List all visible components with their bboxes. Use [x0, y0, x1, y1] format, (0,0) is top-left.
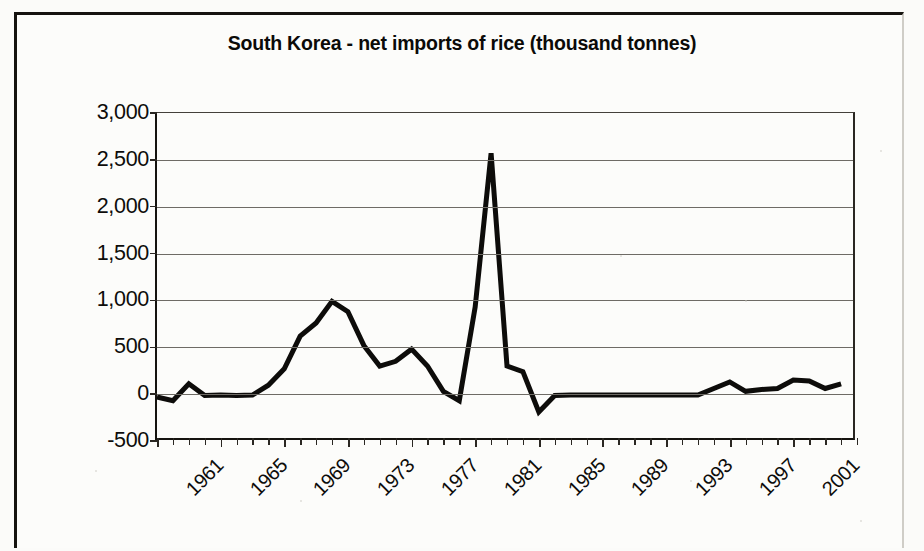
- scan-artifact: [860, 520, 862, 522]
- x-axis-tick-label: 1989: [627, 454, 674, 501]
- x-axis-tick-label: 1973: [372, 454, 419, 501]
- x-axis-tick-label: 1993: [691, 454, 738, 501]
- scan-artifact: [620, 255, 622, 257]
- x-axis-tick-label: 1961: [182, 454, 229, 501]
- x-axis-tick-label: 1969: [309, 454, 356, 501]
- scan-artifact: [880, 150, 882, 152]
- x-axis-tick-label: 1965: [245, 454, 292, 501]
- scan-artifact: [300, 500, 302, 502]
- x-axis-labels: 1961196519691973197719811985198919931997…: [0, 0, 924, 551]
- scan-artifact: [95, 470, 97, 472]
- x-axis-tick-label: 1981: [500, 454, 547, 501]
- x-axis-tick-label: 1977: [436, 454, 483, 501]
- x-axis-tick-label: 2001: [818, 454, 865, 501]
- scan-artifact: [690, 480, 692, 482]
- x-axis-tick-label: 1997: [754, 454, 801, 501]
- x-axis-tick-label: 1985: [563, 454, 610, 501]
- scan-artifact: [745, 300, 747, 302]
- chart-page: South Korea - net imports of rice (thous…: [0, 0, 924, 551]
